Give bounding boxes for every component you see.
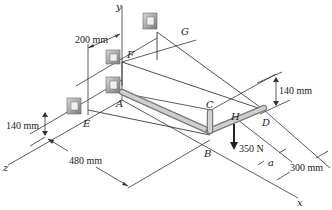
dim-200mm: 200 mm xyxy=(75,34,108,45)
dim-300mm: 300 mm xyxy=(290,162,323,173)
load-label: 350 N xyxy=(239,143,264,154)
bracket-g xyxy=(143,13,157,29)
point-label-d: D xyxy=(261,117,270,128)
load-arrow xyxy=(230,124,238,150)
point-label-b: B xyxy=(203,148,211,159)
point-label-f: F xyxy=(126,49,135,60)
bracket-f xyxy=(106,50,120,64)
dim-a: a xyxy=(268,157,274,168)
point-label-g: G xyxy=(181,26,189,37)
axis-label-z: z xyxy=(2,162,9,173)
dim-480mm: 480 mm xyxy=(69,155,102,166)
rigid-frame-diagram: y x z F G A E C B D H 350 N 200 mm 140 m… xyxy=(0,0,332,210)
bracket-e xyxy=(67,98,81,114)
point-label-c: C xyxy=(206,99,214,110)
bracket-a xyxy=(106,77,120,93)
construction-lines xyxy=(8,6,330,198)
axis-label-y: y xyxy=(115,1,122,12)
axis-label-x: x xyxy=(297,197,303,208)
point-label-a: A xyxy=(115,98,123,109)
dim-140mm-right: 140 mm xyxy=(279,85,312,96)
point-label-e: E xyxy=(82,118,91,129)
point-label-h: H xyxy=(230,111,240,122)
dim-140mm-left: 140 mm xyxy=(6,120,39,131)
